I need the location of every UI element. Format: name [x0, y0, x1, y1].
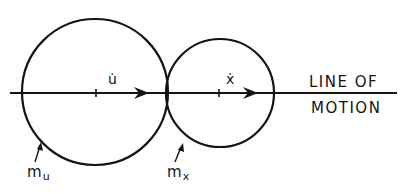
line-of-motion-label-line2: MOTION: [311, 99, 381, 117]
mass-x-subscript: x: [183, 170, 190, 183]
mass-x-label: mx: [167, 163, 190, 183]
mass-u-symbol: m: [27, 163, 42, 181]
mass-x-symbol: m: [167, 163, 182, 181]
collision-diagram: u̇ ẋ LINE OF MOTION mu mx: [0, 0, 412, 194]
mass-u-subscript: u: [43, 170, 50, 183]
line-of-motion-label-line1: LINE OF: [309, 73, 378, 91]
velocity-x-label: ẋ: [226, 71, 234, 87]
velocity-u-label: u̇: [108, 71, 117, 87]
mass-u-label: mu: [27, 163, 50, 183]
